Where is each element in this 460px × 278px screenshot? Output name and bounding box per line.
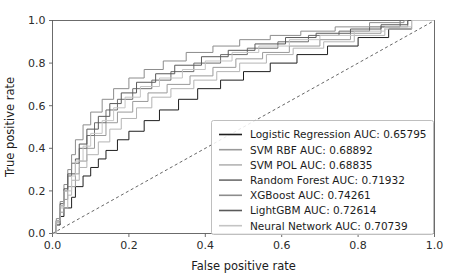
x-tick-label: 0.4 — [197, 239, 215, 252]
y-tick-label: 1.0 — [28, 14, 46, 27]
legend-label-logistic-regression: Logistic Regression AUC: 0.65795 — [250, 128, 427, 140]
y-tick-label: 0.2 — [28, 185, 46, 198]
legend-label-xgboost: XGBoost AUC: 0.74261 — [250, 189, 371, 201]
y-tick-label: 0.6 — [28, 100, 46, 113]
y-tick-label: 0.4 — [28, 142, 46, 155]
legend-label-svm-pol: SVM POL AUC: 0.68835 — [250, 159, 373, 171]
y-tick-label: 0.0 — [28, 227, 46, 240]
y-tick-label: 0.8 — [28, 57, 46, 70]
x-tick-label: 0.2 — [120, 239, 138, 252]
legend-label-lightgbm: LightGBM AUC: 0.72614 — [250, 204, 377, 216]
x-axis-title: False positive rate — [191, 259, 296, 273]
legend-label-svm-rbf: SVM RBF AUC: 0.68892 — [250, 144, 373, 156]
legend-label-neural-network: Neural Network AUC: 0.70739 — [250, 220, 408, 232]
x-tick-label: 0.0 — [44, 239, 62, 252]
legend-label-random-forest: Random Forest AUC: 0.71932 — [250, 174, 405, 186]
roc-curve-figure: 0.00.20.40.60.81.0 0.00.20.40.60.81.0 Fa… — [0, 0, 460, 278]
x-tick-label: 0.6 — [273, 239, 291, 252]
x-tick-label: 0.8 — [349, 239, 367, 252]
y-axis-title: True positive rate — [3, 77, 17, 178]
chart-canvas: 0.00.20.40.60.81.0 0.00.20.40.60.81.0 Fa… — [0, 0, 460, 278]
x-tick-label: 1.0 — [426, 239, 444, 252]
chart-legend[interactable]: Logistic Regression AUC: 0.65795SVM RBF … — [212, 121, 434, 235]
